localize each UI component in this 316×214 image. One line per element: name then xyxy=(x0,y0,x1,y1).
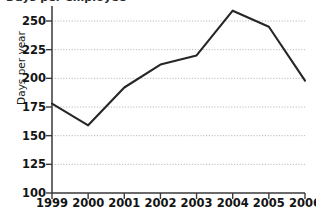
gridlines xyxy=(52,21,305,164)
x-axis-ticks xyxy=(52,193,305,199)
y-axis-ticks xyxy=(46,21,52,193)
data-series-line xyxy=(52,11,305,126)
line-chart: Days per employee Days per year 10012515… xyxy=(0,0,316,214)
axis-lines xyxy=(52,6,305,193)
plot-area xyxy=(0,0,316,214)
